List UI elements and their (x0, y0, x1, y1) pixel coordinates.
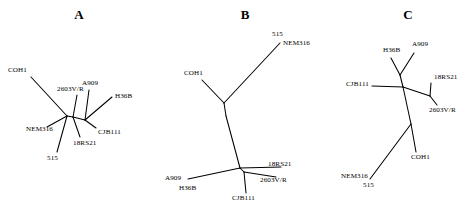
taxon-label: 515 (47, 154, 58, 162)
tree-branch (57, 116, 67, 152)
taxon-label: H36B (383, 46, 401, 54)
tree-branch (202, 80, 224, 103)
tree-branch (31, 77, 67, 116)
taxon-label: 515 (363, 181, 374, 189)
tree-a: COH12603V/RA909H36BCJB11118RS21515NEM316 (8, 66, 133, 162)
taxon-label: NEM316 (341, 172, 368, 180)
tree-branch (430, 96, 437, 105)
taxon-label: COH1 (8, 66, 27, 74)
taxon-label: CJB111 (346, 80, 369, 88)
tree-branch (403, 87, 411, 124)
tree-b: 515NEM316COH118RS212603V/RCJB111A909H36B (165, 30, 310, 202)
taxon-label: CJB111 (98, 128, 121, 136)
taxon-label: A909 (165, 174, 182, 182)
taxon-label: COH1 (184, 69, 203, 77)
tree-branch (430, 83, 431, 96)
taxon-label: 18RS21 (434, 73, 458, 81)
tree-branch (73, 95, 77, 117)
taxon-label: 18RS21 (268, 160, 292, 168)
taxon-label: H36B (115, 92, 133, 100)
tree-branch (226, 116, 240, 168)
tree-c: H36BA909CJB11118RS212603V/RCOH1NEM316515 (341, 40, 458, 189)
tree-branch (73, 117, 85, 120)
figure-container: A B C COH12603V/RA909H36BCJB11118RS21515… (0, 0, 475, 210)
tree-branch (85, 97, 112, 120)
taxon-label: NEM316 (283, 39, 310, 47)
tree-branch (85, 90, 89, 120)
tree-branch (224, 103, 226, 116)
tree-branch (224, 43, 280, 103)
tree-branch (67, 116, 73, 117)
tree-branch (188, 168, 240, 179)
taxon-label: NEM316 (26, 125, 53, 133)
taxon-label: A909 (412, 40, 429, 48)
tree-branch (85, 120, 96, 128)
taxon-label: 515 (272, 30, 283, 38)
phylogenetic-tree-layer: COH12603V/RA909H36BCJB11118RS21515NEM316… (0, 0, 475, 210)
tree-branch (372, 86, 403, 87)
tree-branch (370, 124, 411, 179)
taxon-label: CJB111 (232, 194, 255, 202)
tree-branch (391, 58, 400, 75)
tree-branch (411, 124, 416, 152)
taxon-label: A909 (82, 79, 99, 87)
tree-branch (73, 117, 80, 137)
tree-branch (244, 172, 246, 193)
tree-branch (400, 53, 414, 75)
taxon-label: 2603V/R (260, 176, 287, 184)
taxon-label: H36B (179, 184, 197, 192)
taxon-label: 18RS21 (73, 139, 97, 147)
taxon-label: 2603V/R (57, 85, 84, 93)
tree-branch (240, 168, 244, 172)
taxon-label: COH1 (411, 153, 430, 161)
tree-branch (400, 75, 403, 87)
taxon-label: 2603V/R (429, 106, 456, 114)
tree-branch (403, 87, 430, 96)
